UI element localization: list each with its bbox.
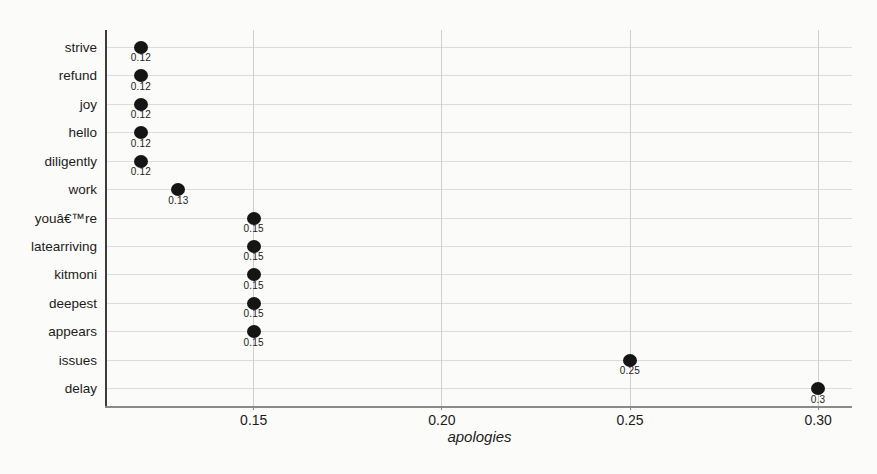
category-label: delay — [0, 381, 97, 396]
gridline-horizontal — [107, 360, 852, 361]
point-value-label: 0.25 — [605, 365, 655, 376]
point-value-label: 0.12 — [116, 166, 166, 177]
point-value-label: 0.15 — [229, 337, 279, 348]
gridline-horizontal — [107, 132, 852, 133]
gridline-horizontal — [107, 274, 852, 275]
point-value-label: 0.12 — [116, 52, 166, 63]
point-value-label: 0.15 — [229, 280, 279, 291]
point-value-label: 0.15 — [229, 251, 279, 262]
gridline-horizontal — [107, 331, 852, 332]
category-label: diligently — [0, 154, 97, 169]
gridline-horizontal — [107, 104, 852, 105]
point-value-label: 0.3 — [793, 394, 843, 405]
point-value-label: 0.15 — [229, 308, 279, 319]
gridline-horizontal — [107, 189, 852, 190]
x-tick-label: 0.15 — [224, 412, 284, 428]
gridline-horizontal — [107, 47, 852, 48]
point-value-label: 0.12 — [116, 81, 166, 92]
category-label: strive — [0, 40, 97, 55]
category-label: issues — [0, 353, 97, 368]
point-value-label: 0.15 — [229, 223, 279, 234]
category-label: latearriving — [0, 239, 97, 254]
category-label: refund — [0, 68, 97, 83]
category-label: appears — [0, 324, 97, 339]
gridline-horizontal — [107, 246, 852, 247]
gridline-vertical — [630, 30, 631, 406]
point-value-label: 0.12 — [116, 138, 166, 149]
x-axis-line — [105, 406, 852, 408]
x-axis-title: apologies — [107, 428, 852, 445]
gridline-vertical — [441, 30, 442, 406]
category-label: deepest — [0, 296, 97, 311]
x-tick-label: 0.30 — [788, 412, 848, 428]
point-value-label: 0.12 — [116, 109, 166, 120]
gridline-horizontal — [107, 388, 852, 389]
x-tick-label: 0.20 — [412, 412, 472, 428]
point-value-label: 0.13 — [153, 195, 203, 206]
gridline-horizontal — [107, 75, 852, 76]
category-label: work — [0, 182, 97, 197]
dot-plot: 0.150.200.250.30striverefundjoyhellodili… — [0, 0, 877, 474]
chart-figure: 0.150.200.250.30striverefundjoyhellodili… — [0, 0, 877, 474]
gridline-vertical — [818, 30, 819, 406]
category-label: youâ€™re — [0, 211, 97, 226]
category-label: hello — [0, 125, 97, 140]
category-label: kitmoni — [0, 267, 97, 282]
gridline-horizontal — [107, 218, 852, 219]
gridline-horizontal — [107, 161, 852, 162]
gridline-horizontal — [107, 303, 852, 304]
x-tick-label: 0.25 — [600, 412, 660, 428]
category-label: joy — [0, 97, 97, 112]
y-axis-line — [105, 30, 107, 408]
